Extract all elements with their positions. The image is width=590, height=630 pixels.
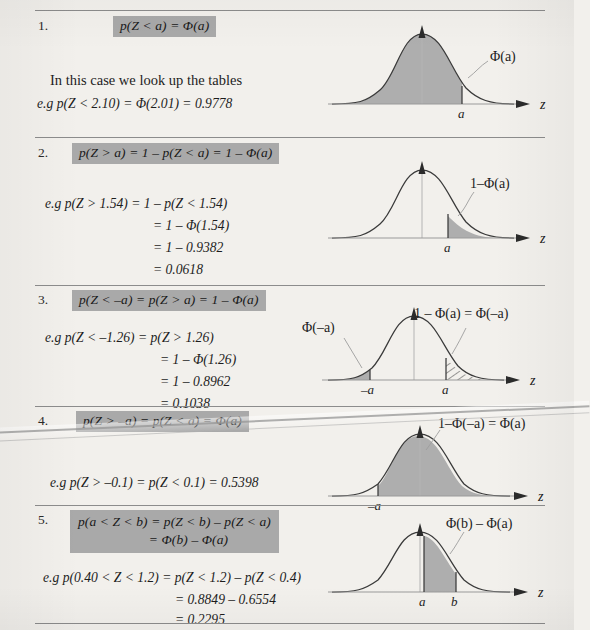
diagram-annotation: Φ(b) – Φ(a) [446, 516, 513, 532]
rule-formula-line-2: = Φ(b) – Φ(a) [78, 531, 271, 549]
shaded-region [336, 34, 462, 104]
section-example-line: e.g p(Z > –0.1) = p(Z < 0.1) = 0.5398 [50, 475, 259, 491]
diagram-annotation-right: 1 – Φ(a) = Φ(–a) [414, 306, 509, 322]
section-example-line: = 1 – Φ(1.54) [153, 218, 229, 234]
axis-label-z: z [537, 489, 544, 504]
normal-curve-path [332, 532, 510, 592]
vertical-axis-arrow [419, 161, 426, 174]
horizontal-axis-arrow [516, 100, 530, 108]
annotation-leader-line [450, 532, 464, 554]
section-text-line: In this case we look up the tables [50, 72, 242, 89]
section-example-line: = 0.0618 [153, 262, 203, 278]
x-tick-label-b: b [451, 594, 458, 609]
section-number: 5. [38, 512, 48, 528]
diagram-5: z a b Φ(b) – Φ(a) [320, 506, 570, 612]
section-rule-formula: p(Z > –a) = p(Z < a) = Φ(a) [76, 411, 249, 432]
diagram-annotation: 1–Φ(a) [470, 176, 510, 192]
section-number: 4. [38, 413, 48, 429]
horizontal-axis-arrow [514, 492, 528, 500]
diagram-annotation: Φ(a) [490, 49, 516, 65]
section-example-line: = 0.1038 [160, 396, 210, 412]
annotation-leader-line [458, 192, 474, 216]
axis-label-z: z [529, 373, 536, 388]
section-example-line: = 1 – 0.8962 [160, 374, 230, 390]
x-tick-label-minus-a: –a [360, 382, 375, 397]
section-example-line: e.g p(0.40 < Z < 1.2) = p(Z < 1.2) – p(Z… [43, 570, 301, 586]
hatched-region-right-tail [446, 358, 490, 380]
section-divider [35, 10, 545, 11]
axis-label-z: z [537, 585, 544, 600]
section-example-line: = 0.2295 [175, 612, 225, 628]
diagram-annotation-left: Φ(–a) [302, 320, 335, 336]
diagram-annotation: 1–Φ(–a) = Φ(a) [438, 416, 526, 432]
section-example-line: e.g p(Z > 1.54) = 1 – p(Z < 1.54) [45, 196, 227, 212]
section-example-line: = 0.8849 – 0.6554 [175, 592, 276, 608]
section-number: 2. [38, 145, 48, 161]
section-divider [35, 623, 545, 624]
section-rule-formula: p(Z < –a) = p(Z > a) = 1 – Φ(a) [72, 290, 266, 311]
axis-label-z: z [539, 231, 546, 246]
x-tick-label-a: a [444, 240, 451, 255]
section-rule-formula: p(Z < a) = Φ(a) [113, 16, 216, 37]
diagram-3: z –a a Φ(–a) 1 – Φ(a) = Φ(–a) [300, 292, 560, 402]
axis-label-z: z [539, 97, 546, 112]
section-example-line: e.g p(Z < 2.10) = Φ(2.01) = 0.9778 [37, 96, 232, 112]
vertical-axis-arrow [417, 523, 424, 536]
x-tick-label-a: a [419, 594, 426, 609]
horizontal-axis-arrow [514, 588, 528, 596]
vertical-axis-arrow [419, 25, 426, 38]
diagram-2: z a 1–Φ(a) [318, 150, 558, 262]
horizontal-axis-arrow [516, 234, 530, 242]
annotation-leader-line-right [452, 328, 466, 354]
annotation-leader-line-left [344, 338, 362, 368]
annotation-leader-line [468, 61, 488, 78]
section-number: 3. [38, 292, 48, 308]
vertical-axis-arrow [417, 425, 424, 438]
section-rule-formula: p(a < Z < b) = p(Z < b) – p(Z < a) = Φ(b… [70, 510, 279, 553]
section-example-line: e.g p(Z < –1.26) = p(Z > 1.26) [45, 330, 214, 346]
section-example-line: = 1 – 0.9382 [153, 240, 223, 256]
x-tick-label-a: a [442, 382, 449, 397]
normal-curve-path [328, 316, 504, 380]
diagram-4: z –a 1–Φ(–a) = Φ(a) [320, 406, 570, 516]
section-rule-formula: p(Z > a) = 1 – p(Z < a) = 1 – Φ(a) [72, 143, 279, 164]
section-divider [35, 285, 545, 286]
section-number: 1. [38, 18, 48, 34]
horizontal-axis-arrow [506, 376, 520, 384]
section-divider [35, 137, 545, 138]
rule-formula-line-1: p(a < Z < b) = p(Z < b) – p(Z < a) [78, 513, 271, 531]
diagram-1: z a Φ(a) [318, 16, 558, 126]
x-tick-label-a: a [458, 106, 465, 121]
section-example-line: = 1 – Φ(1.26) [160, 352, 236, 368]
